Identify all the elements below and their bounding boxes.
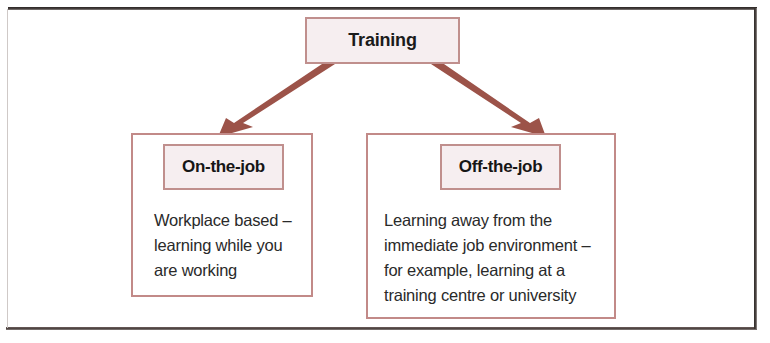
on-the-job-heading-chip: On-the-job (163, 144, 284, 190)
frame-border-bottom (6, 327, 757, 330)
frame-border-left (7, 9, 8, 328)
training-node-label: Training (348, 30, 416, 51)
off-the-job-description: Learning away from the immediate job env… (384, 208, 619, 308)
off-the-job-heading-label: Off-the-job (459, 157, 543, 177)
frame-border-top (8, 7, 757, 10)
off-the-job-heading-chip: Off-the-job (440, 144, 561, 190)
arrow-training-to-on-the-job (218, 64, 335, 137)
training-node: Training (305, 17, 460, 64)
arrow-training-to-off-the-job (431, 64, 546, 137)
on-the-job-description: Workplace based – learning while you are… (154, 208, 314, 283)
off-the-job-description-line: training centre or university (384, 283, 619, 308)
on-the-job-description-line: learning while you (154, 233, 314, 258)
frame-border-right (754, 8, 757, 329)
off-the-job-description-line: for example, learning at a (384, 258, 619, 283)
diagram-canvas: Training On-the-job Off-the-job Workplac… (0, 0, 770, 343)
on-the-job-description-line: are working (154, 258, 314, 283)
on-the-job-heading-label: On-the-job (182, 157, 265, 177)
off-the-job-description-line: Learning away from the (384, 208, 619, 233)
off-the-job-description-line: immediate job environment – (384, 233, 619, 258)
on-the-job-description-line: Workplace based – (154, 208, 314, 233)
